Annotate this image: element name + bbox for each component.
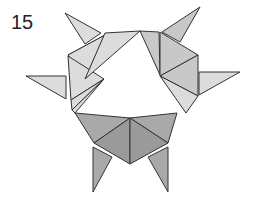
top-module-right [140, 31, 160, 75]
origami-diagram [0, 0, 255, 201]
spike-bottom-right [148, 147, 168, 192]
spike-top-left [65, 13, 101, 44]
spike-bottom-left [93, 147, 112, 192]
spike-right [199, 72, 240, 95]
spike-left [26, 76, 66, 99]
